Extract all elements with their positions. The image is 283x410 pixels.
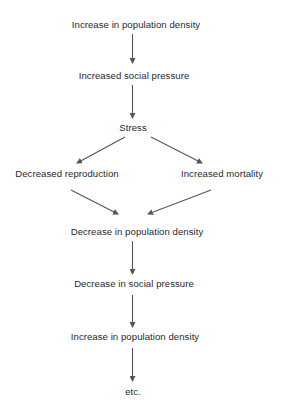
arrow-n4-n6 [71, 190, 118, 214]
node-increased-mortality: Increased mortality [181, 168, 263, 180]
arrow-n3-n4 [77, 137, 125, 163]
arrow-n3-n5 [151, 137, 202, 163]
flowchart-diagram: Increase in population density Increased… [0, 0, 283, 410]
node-decreased-reproduction: Decreased reproduction [15, 168, 119, 180]
diagram-arrows [0, 0, 283, 410]
node-increased-social-pressure: Increased social pressure [79, 70, 190, 82]
arrow-n5-n6 [148, 190, 211, 214]
node-decrease-social-pressure: Decrease in social pressure [74, 278, 194, 290]
node-etc: etc. [125, 386, 141, 398]
node-decrease-population-density: Decrease in population density [71, 226, 204, 238]
node-stress: Stress [119, 122, 147, 134]
node-increase-population-density: Increase in population density [72, 19, 200, 31]
node-increase-population-density-2: Increase in population density [71, 331, 199, 343]
